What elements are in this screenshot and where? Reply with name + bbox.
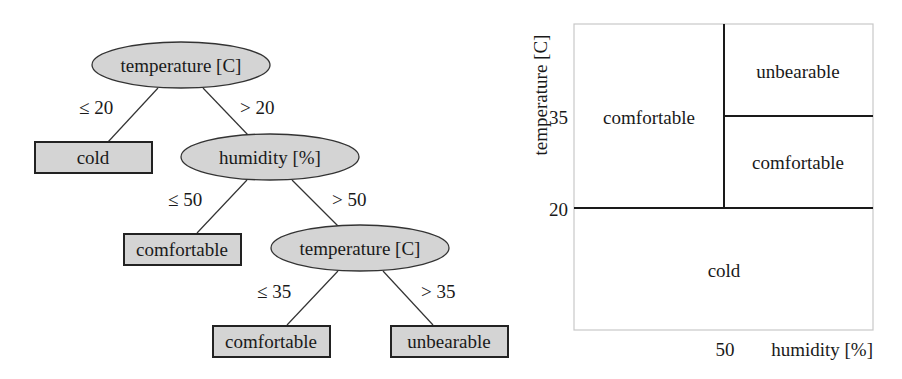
region-bottom-cold: cold <box>708 260 741 281</box>
y-tick-35: 35 <box>549 107 568 128</box>
edge-label-root-gt: > 20 <box>240 97 274 118</box>
figure: ≤ 20 > 20 ≤ 50 > 50 ≤ 35 > 35 temperatur… <box>0 0 902 379</box>
x-tick-50: 50 <box>716 339 735 360</box>
region-mid-right-comfortable: comfortable <box>752 152 844 173</box>
edge-label-root-le: ≤ 20 <box>79 97 113 118</box>
edge-label-temp2-gt: > 35 <box>421 281 455 302</box>
leaf-comfortable-1: comfortable <box>124 234 241 265</box>
node-humidity: humidity [%] <box>181 134 359 180</box>
leaf-unbearable: unbearable <box>391 326 508 357</box>
node-temperature-2: temperature [C] <box>271 225 449 271</box>
leaf-cold-label: cold <box>77 147 110 168</box>
leaf-cold: cold <box>35 142 152 173</box>
y-tick-20: 20 <box>549 199 568 220</box>
edge-label-hum-gt: > 50 <box>332 189 366 210</box>
leaf-unbearable-label: unbearable <box>407 331 490 352</box>
leaf-comfortable-1-label: comfortable <box>136 239 228 260</box>
node-humidity-label: humidity [%] <box>219 147 321 168</box>
edge-humidity-to-comfortable <box>197 180 247 233</box>
node-root-temperature: temperature [C] <box>92 42 270 88</box>
edge-temperature-to-comfortable <box>287 271 338 325</box>
leaf-comfortable-2: comfortable <box>213 326 330 357</box>
edge-root-to-cold <box>108 88 158 142</box>
edge-label-hum-le: ≤ 50 <box>168 189 202 210</box>
node-root-label: temperature [C] <box>121 55 242 76</box>
leaf-comfortable-2-label: comfortable <box>225 331 317 352</box>
region-top-right-unbearable: unbearable <box>756 61 839 82</box>
decision-tree: ≤ 20 > 20 ≤ 50 > 50 ≤ 35 > 35 temperatur… <box>35 42 508 357</box>
node-temperature-2-label: temperature [C] <box>300 238 421 259</box>
edge-label-temp2-le: ≤ 35 <box>257 281 291 302</box>
partition-plot: temperature [C] humidity [%] 35 20 50 co… <box>530 24 873 360</box>
region-left-comfortable: comfortable <box>603 107 695 128</box>
y-axis-label: temperature [C] <box>530 35 551 156</box>
x-axis-label: humidity [%] <box>771 339 873 360</box>
